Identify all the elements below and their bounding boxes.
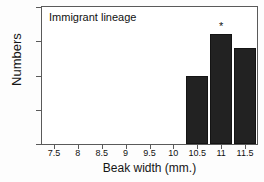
significance-asterisk: * bbox=[201, 22, 241, 31]
y-axis-tick bbox=[36, 110, 42, 111]
y-axis-tick bbox=[36, 41, 42, 42]
x-axis-title: Beak width (mm.) bbox=[41, 161, 258, 175]
y-axis-tick bbox=[36, 7, 42, 8]
y-axis-tick bbox=[36, 76, 42, 77]
bar bbox=[186, 76, 208, 145]
y-axis-tick bbox=[36, 144, 42, 145]
x-axis-tick-label: 11.5 bbox=[225, 148, 264, 158]
chart-figure: Numbers Immigrant lineage * 02.557.510 B… bbox=[0, 0, 264, 182]
bar bbox=[234, 48, 256, 144]
bar bbox=[210, 34, 232, 144]
plot-area: Immigrant lineage * 02.557.510 bbox=[41, 6, 258, 145]
bars-layer: * bbox=[42, 7, 257, 144]
y-axis-title: Numbers bbox=[9, 10, 24, 110]
